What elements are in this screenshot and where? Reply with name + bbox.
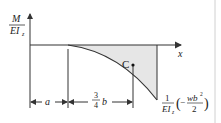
- end-label-paren-close: ): [204, 96, 209, 112]
- end-label-coef-denominator: EI: [161, 104, 171, 114]
- end-label-coef-numerator: 1: [165, 93, 170, 103]
- y-label-numerator: M: [11, 13, 21, 24]
- end-label-frac-numerator: wb: [187, 93, 198, 103]
- dim-b-numerator: 3: [94, 91, 98, 100]
- point-c-marker: [131, 63, 134, 66]
- end-label-frac-numerator-sup: 2: [200, 91, 203, 97]
- y-label-denominator-sub: z: [21, 31, 25, 37]
- y-label-denominator: EI: [9, 25, 20, 36]
- point-c-label: C: [122, 58, 129, 70]
- moment-diagram: C x M EI z a 3 4 b 1 EI z ( − wb 2 2 ): [0, 0, 221, 123]
- dim-a-label: a: [45, 96, 50, 107]
- end-label-frac-denominator: 2: [192, 104, 197, 114]
- end-label-coef-denominator-sub: z: [171, 109, 175, 115]
- x-axis-label: x: [177, 48, 183, 59]
- dim-b-denominator: 4: [94, 101, 98, 110]
- end-label-minus: −: [180, 97, 185, 107]
- dim-b-var: b: [102, 96, 107, 107]
- shaded-area: [68, 45, 157, 100]
